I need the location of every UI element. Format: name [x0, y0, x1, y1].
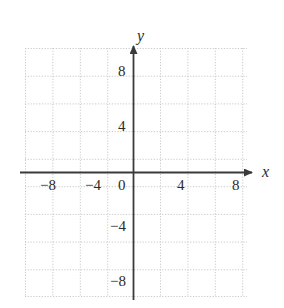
x-tick-label-neg4: −4	[85, 178, 101, 193]
y-tick-label-8: 8	[118, 64, 126, 79]
y-axis-name-label: y	[137, 28, 144, 44]
y-tick-label-4: 4	[118, 119, 126, 134]
y-tick-label-neg4: −4	[110, 219, 126, 234]
x-tick-label-8: 8	[232, 178, 240, 193]
x-axis-name-label: x	[262, 164, 269, 180]
y-tick-label-neg8: −8	[110, 274, 126, 289]
coordinate-grid-svg	[0, 0, 284, 308]
x-tick-label-neg8: −8	[40, 178, 56, 193]
coordinate-plane-figure: −8 −4 0 4 8 8 4 −4 −8 x y	[0, 0, 284, 308]
x-tick-label-4: 4	[177, 178, 185, 193]
x-tick-label-zero: 0	[118, 178, 126, 193]
